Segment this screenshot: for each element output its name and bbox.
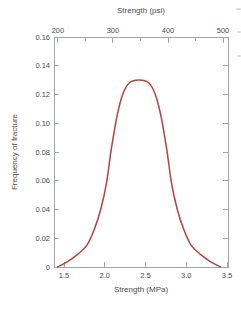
y-axis-title: Frequency of fracture bbox=[10, 113, 19, 190]
plot-frame bbox=[54, 37, 228, 267]
left-axis-tick-label: 0.14 bbox=[35, 61, 50, 70]
distribution-curve bbox=[58, 80, 221, 267]
fracture-strength-distribution-figure: Strength (psi) Strength (MPa) Frequency … bbox=[0, 0, 241, 311]
left-axis-tick-label: 0 bbox=[46, 263, 50, 272]
bottom-axis-tick-label: 2.0 bbox=[100, 271, 110, 280]
left-axis-tick-label: 0.04 bbox=[35, 205, 50, 214]
bottom-axis-tick-label: 2.5 bbox=[140, 271, 150, 280]
left-axis-tick-label: 0.06 bbox=[35, 176, 50, 185]
page-edge-artifact bbox=[237, 55, 241, 57]
left-axis-tick-label: 0.16 bbox=[35, 33, 50, 42]
bottom-axis-tick-label: 3.5 bbox=[222, 271, 232, 280]
left-axis-tick-label: 0.10 bbox=[35, 119, 50, 128]
bottom-axis-tick-label: 3.0 bbox=[181, 271, 191, 280]
left-axis-tick-label: 0.02 bbox=[35, 234, 50, 243]
chart-canvas: Strength (psi) Strength (MPa) Frequency … bbox=[0, 0, 241, 311]
top-axis-tick-label: 300 bbox=[107, 26, 120, 35]
page-edge-artifact bbox=[237, 31, 241, 33]
top-axis-title: Strength (psi) bbox=[117, 6, 165, 15]
top-axis-tick-label: 500 bbox=[217, 26, 230, 35]
left-axis-tick-label: 0.12 bbox=[35, 90, 50, 99]
bottom-axis-tick-label: 1.5 bbox=[59, 271, 69, 280]
left-axis-tick-label: 0.08 bbox=[35, 148, 50, 157]
page-edge-artifact bbox=[236, 8, 241, 10]
top-axis-tick-label: 200 bbox=[52, 26, 65, 35]
top-axis-tick-label: 400 bbox=[162, 26, 175, 35]
bottom-axis-title: Strength (MPa) bbox=[114, 285, 169, 294]
